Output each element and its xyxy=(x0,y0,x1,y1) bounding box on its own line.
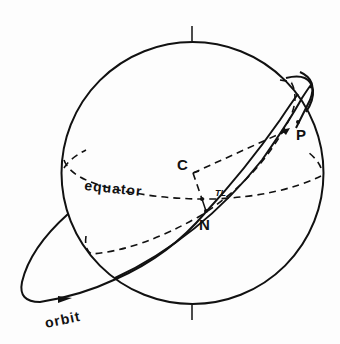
sphere-diagram: C N P TL equator orbit xyxy=(0,0,340,344)
orbit-ellipse-lower xyxy=(21,214,116,302)
center-to-node-line xyxy=(193,173,202,199)
center-corner-tick xyxy=(193,171,199,173)
center-to-p-line xyxy=(193,130,288,173)
orbit-ellipse xyxy=(115,72,312,278)
node-tick xyxy=(202,199,206,211)
label-p: P xyxy=(296,126,306,143)
label-c: C xyxy=(177,156,188,173)
orbit-plane-back xyxy=(280,80,292,82)
label-equator: equator xyxy=(84,177,144,199)
orbit-ellipse-main xyxy=(116,94,298,279)
label-orbit: orbit xyxy=(43,308,82,331)
label-n: N xyxy=(199,216,210,233)
p-point xyxy=(296,120,300,124)
orbit-arrow-icon xyxy=(58,296,72,303)
equator-back-right xyxy=(308,152,321,168)
diagram-canvas: C N P TL equator orbit xyxy=(0,0,340,344)
label-angle: TL xyxy=(215,188,226,198)
